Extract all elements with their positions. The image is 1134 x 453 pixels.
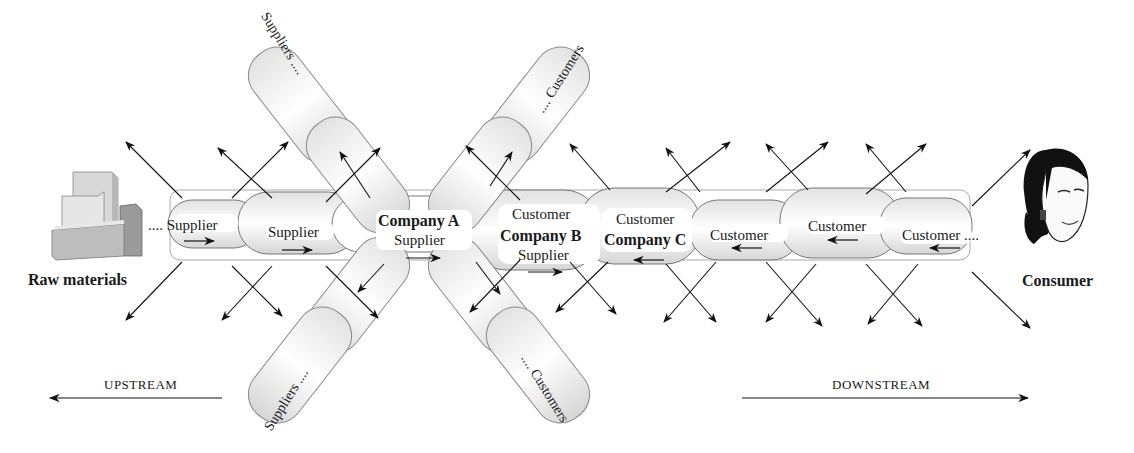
customer-2-label: Customer — [808, 219, 866, 234]
company-b-label: Company B — [500, 228, 581, 244]
raw-materials-label: Raw materials — [28, 272, 127, 288]
company-a-label: Company A — [378, 213, 459, 229]
company-c-label: Company C — [604, 232, 686, 248]
company-b-role-label: Supplier — [518, 248, 569, 263]
upstream-label: UPSTREAM — [104, 378, 177, 391]
company-b-customer-label: Customer — [512, 207, 570, 222]
branch-chain-suppliers-bottom — [238, 227, 420, 434]
customer-3-label: Customer .... — [902, 228, 979, 243]
boxes-icon — [52, 172, 142, 260]
company-a-role-label: Supplier — [394, 233, 445, 248]
customer-1-label: Customer — [710, 228, 768, 243]
supplier-2-label: Supplier — [268, 225, 319, 240]
company-c-customer-label: Customer — [616, 212, 674, 227]
downstream-label: DOWNSTREAM — [832, 378, 930, 391]
consumer-label: Consumer — [1022, 273, 1093, 289]
consumer-portrait-icon — [1024, 148, 1088, 244]
supplier-1-label: .... Supplier — [148, 218, 218, 233]
